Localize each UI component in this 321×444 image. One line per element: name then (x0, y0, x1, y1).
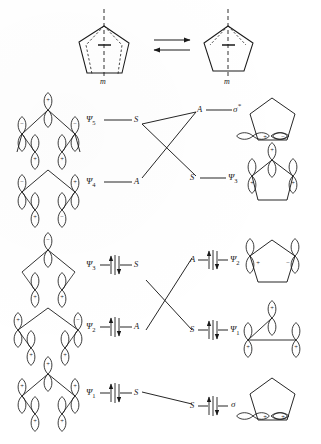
symmetry-label-bottom-right-S: S (190, 401, 194, 410)
orbital-structure-psi4 (18, 170, 79, 227)
bottom-correlation-line (142, 392, 192, 404)
svg-text:−: − (73, 120, 77, 127)
equilibrium-arrows (154, 40, 190, 50)
label-psi1-left: Ψ1 (86, 388, 96, 399)
svg-text:−: − (281, 133, 285, 140)
svg-text:+: + (33, 213, 37, 220)
label-psi3-left: Ψ3 (86, 260, 96, 271)
label-psi3-right: Ψ3 (228, 173, 238, 184)
svg-text:+: + (46, 96, 50, 103)
mirror-label-left: m (100, 78, 106, 86)
svg-text:+: + (73, 178, 77, 185)
svg-text:+: + (294, 343, 298, 350)
symmetry-label-upper-right-S: S (190, 173, 194, 182)
psi2l-subscript: 2 (92, 326, 95, 333)
top-right-structure (204, 9, 253, 78)
svg-text:+: + (270, 146, 274, 153)
svg-text:+: + (16, 316, 20, 323)
svg-text:+: + (281, 413, 285, 420)
figure-canvas: + −− ++ −+ +− +− + ++ − ++ +− ++ +− + ++… (0, 0, 321, 444)
svg-text:−: − (20, 178, 24, 185)
psi1r-subscript: 1 (236, 329, 239, 336)
svg-text:+: + (73, 382, 77, 389)
symmetry-label-upper-right-A: A (197, 105, 202, 114)
orbital-structure-psi1-left (18, 357, 79, 432)
label-psi4: Ψ4 (86, 177, 96, 188)
svg-text:−: − (76, 316, 80, 323)
svg-text:+: + (46, 360, 50, 367)
psi3l-subscript: 3 (92, 264, 95, 271)
svg-text:+: + (263, 133, 267, 140)
svg-text:+: + (60, 155, 64, 162)
upper-correlation-lines (104, 110, 232, 182)
symmetry-label-lower-right-A: A (190, 255, 195, 264)
electron-level-ticks (115, 250, 213, 416)
svg-text:+: + (250, 179, 254, 186)
svg-text:+: + (20, 382, 24, 389)
svg-text:+: + (270, 304, 274, 311)
svg-text:+: + (246, 343, 250, 350)
orbital-structure-psi2-right (246, 239, 299, 282)
svg-text:+: + (256, 259, 260, 266)
orbital-structure-psi5 (17, 93, 80, 170)
diagram-svg: + −− ++ −+ +− +− + ++ − ++ +− ++ +− + ++… (0, 0, 321, 444)
svg-text:+: + (29, 351, 33, 358)
symmetry-label-lower-right-S: S (190, 325, 194, 334)
psi1l-subscript: 1 (92, 392, 95, 399)
label-psi2-left: Ψ2 (86, 322, 96, 333)
label-psi5: Ψ5 (86, 115, 96, 126)
psi5-subscript: 5 (92, 119, 95, 126)
orbital-structure-psi3-left (22, 233, 75, 308)
sigma-star-superscript: * (237, 102, 241, 110)
psi2r-subscript: 2 (236, 259, 239, 266)
label-psi2-right: Ψ2 (230, 255, 240, 266)
svg-text:−: − (46, 236, 50, 243)
label-sigma: σ (231, 400, 235, 409)
symmetry-label-lower-left-A: A (134, 322, 139, 331)
symmetry-label-upper-left-S: S (134, 115, 138, 124)
svg-text:+: + (60, 293, 64, 300)
svg-text:−: − (286, 259, 290, 266)
symmetry-label-lower-left-S: S (134, 260, 138, 269)
psi4-subscript: 4 (92, 181, 95, 188)
svg-text:+: + (33, 155, 37, 162)
lower-correlation-lines (146, 258, 196, 330)
svg-text:−: − (60, 213, 64, 220)
symmetry-label-bottom-left-S: S (134, 388, 138, 397)
mirror-label-right: m (224, 78, 230, 86)
svg-text:+: + (291, 179, 295, 186)
svg-text:+: + (63, 351, 67, 358)
psi3r-subscript: 3 (234, 177, 237, 184)
electron-arrows (111, 251, 217, 415)
symmetry-label-upper-left-A: A (134, 177, 139, 186)
label-psi1-right: Ψ1 (230, 325, 240, 336)
svg-text:−: − (20, 120, 24, 127)
top-left-structure (79, 9, 129, 78)
svg-text:+: + (263, 413, 267, 420)
svg-text:+: + (60, 417, 64, 424)
svg-text:+: + (33, 417, 37, 424)
label-sigma-star: σ* (233, 103, 241, 114)
svg-text:+: + (33, 293, 37, 300)
